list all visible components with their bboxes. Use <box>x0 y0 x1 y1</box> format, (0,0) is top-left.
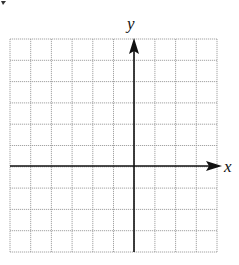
x-axis <box>10 161 222 171</box>
grid-lines <box>10 39 217 252</box>
y-axis-label: y <box>125 14 135 33</box>
y-axis <box>129 38 139 252</box>
x-axis-label: x <box>223 157 232 176</box>
coordinate-plane: y x <box>0 0 239 265</box>
corner-mark <box>1 1 6 5</box>
